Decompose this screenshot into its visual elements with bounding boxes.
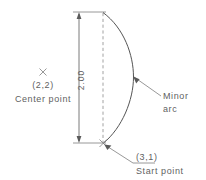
arc-diagram-svg: 2.00 (2,2) Center point Minor arc (3,1) …	[0, 0, 206, 180]
diagram-canvas: 2.00 (2,2) Center point Minor arc (3,1) …	[0, 0, 206, 180]
dimension-value-label: 2.00	[76, 70, 86, 91]
dimension-arrowhead-bottom	[77, 136, 82, 143]
center-point-coordinate-label: (2,2)	[32, 80, 54, 90]
start-point-leader-arrowhead	[104, 144, 111, 150]
minor-arc-leader-arrowhead	[133, 76, 139, 83]
minor-arc-label-line1: Minor	[163, 91, 189, 101]
start-point-coordinate-label: (3,1)	[136, 152, 158, 162]
minor-arc-path	[103, 13, 134, 144]
dimension-arrowhead-top	[77, 12, 82, 19]
center-point-x-marker	[40, 69, 47, 76]
minor-arc-label-line2: arc	[163, 104, 177, 114]
start-point-name-label: Start point	[136, 166, 184, 176]
center-point-name-label: Center point	[15, 94, 71, 104]
